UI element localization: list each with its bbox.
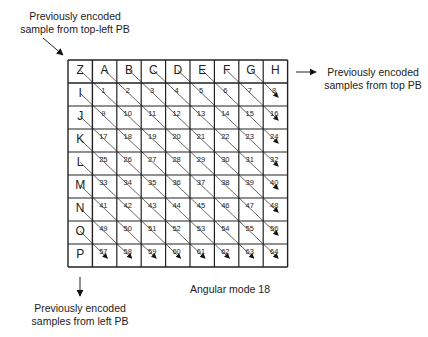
- svg-text:15: 15: [246, 109, 254, 118]
- svg-text:24: 24: [270, 132, 278, 141]
- svg-text:45: 45: [197, 201, 205, 210]
- svg-text:23: 23: [246, 132, 254, 141]
- prediction-grid: ZABCDEFGHIJKLMNOP12345678910111213141516…: [0, 0, 428, 337]
- svg-text:K: K: [76, 132, 84, 146]
- svg-text:7: 7: [248, 86, 252, 95]
- svg-text:47: 47: [246, 201, 254, 210]
- svg-text:39: 39: [246, 178, 254, 187]
- svg-text:13: 13: [197, 109, 205, 118]
- svg-text:61: 61: [197, 247, 205, 256]
- svg-text:53: 53: [197, 224, 205, 233]
- svg-text:I: I: [79, 86, 82, 100]
- svg-text:M: M: [75, 178, 85, 192]
- svg-text:35: 35: [148, 178, 156, 187]
- svg-text:J: J: [77, 109, 83, 123]
- svg-text:51: 51: [148, 224, 156, 233]
- cell-labels: ZABCDEFGHIJKLMNOP12345678910111213141516…: [75, 63, 280, 261]
- svg-text:58: 58: [124, 247, 132, 256]
- svg-text:55: 55: [246, 224, 254, 233]
- svg-text:19: 19: [148, 132, 156, 141]
- svg-text:49: 49: [99, 224, 107, 233]
- svg-text:37: 37: [197, 178, 205, 187]
- svg-text:46: 46: [221, 201, 229, 210]
- svg-text:14: 14: [221, 109, 229, 118]
- svg-text:32: 32: [270, 155, 278, 164]
- svg-text:G: G: [246, 63, 255, 77]
- svg-text:21: 21: [197, 132, 205, 141]
- svg-text:E: E: [198, 63, 206, 77]
- svg-text:62: 62: [221, 247, 229, 256]
- svg-text:D: D: [173, 63, 182, 77]
- svg-text:41: 41: [99, 201, 107, 210]
- svg-text:64: 64: [270, 247, 278, 256]
- svg-text:A: A: [101, 63, 109, 77]
- svg-text:2: 2: [126, 86, 130, 95]
- svg-text:57: 57: [99, 247, 107, 256]
- svg-text:27: 27: [148, 155, 156, 164]
- svg-text:C: C: [149, 63, 158, 77]
- svg-text:1: 1: [101, 86, 105, 95]
- svg-text:26: 26: [124, 155, 132, 164]
- svg-text:4: 4: [174, 86, 178, 95]
- svg-text:43: 43: [148, 201, 156, 210]
- svg-text:3: 3: [150, 86, 154, 95]
- svg-text:48: 48: [270, 201, 278, 210]
- svg-text:L: L: [77, 155, 84, 169]
- svg-text:P: P: [76, 247, 84, 261]
- svg-text:63: 63: [246, 247, 254, 256]
- svg-text:30: 30: [221, 155, 229, 164]
- svg-text:B: B: [125, 63, 133, 77]
- svg-text:20: 20: [172, 132, 180, 141]
- svg-text:H: H: [271, 63, 280, 77]
- svg-text:36: 36: [172, 178, 180, 187]
- svg-text:10: 10: [124, 109, 132, 118]
- svg-text:42: 42: [124, 201, 132, 210]
- svg-text:40: 40: [270, 178, 278, 187]
- svg-text:59: 59: [148, 247, 156, 256]
- svg-text:17: 17: [99, 132, 107, 141]
- svg-text:54: 54: [221, 224, 229, 233]
- svg-text:38: 38: [221, 178, 229, 187]
- svg-text:18: 18: [124, 132, 132, 141]
- svg-text:25: 25: [99, 155, 107, 164]
- svg-text:28: 28: [172, 155, 180, 164]
- svg-text:33: 33: [99, 178, 107, 187]
- svg-text:50: 50: [124, 224, 132, 233]
- svg-text:52: 52: [172, 224, 180, 233]
- svg-text:8: 8: [272, 86, 276, 95]
- svg-text:Z: Z: [77, 63, 84, 77]
- svg-text:22: 22: [221, 132, 229, 141]
- svg-text:O: O: [76, 224, 85, 238]
- svg-text:60: 60: [172, 247, 180, 256]
- svg-text:6: 6: [223, 86, 227, 95]
- svg-text:9: 9: [101, 109, 105, 118]
- svg-text:56: 56: [270, 224, 278, 233]
- svg-text:29: 29: [197, 155, 205, 164]
- svg-text:44: 44: [172, 201, 180, 210]
- svg-text:31: 31: [246, 155, 254, 164]
- svg-text:N: N: [76, 201, 85, 215]
- svg-text:34: 34: [124, 178, 132, 187]
- svg-text:12: 12: [172, 109, 180, 118]
- svg-text:5: 5: [199, 86, 203, 95]
- svg-text:16: 16: [270, 109, 278, 118]
- svg-text:11: 11: [148, 109, 156, 118]
- svg-text:F: F: [223, 63, 230, 77]
